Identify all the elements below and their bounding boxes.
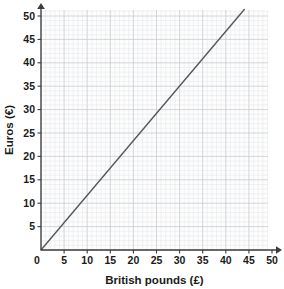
x-tick-label: 0: [34, 254, 40, 266]
conversion-graph: 05101520253035404550 5101520253035404550…: [0, 0, 284, 289]
x-tick-label: 25: [151, 254, 163, 266]
y-tick-label: 35: [23, 80, 35, 92]
x-tick-label: 35: [197, 254, 209, 266]
x-tick-label: 15: [104, 254, 116, 266]
chart-canvas: 05101520253035404550 5101520253035404550…: [0, 0, 284, 289]
y-axis-title: Euros (€): [3, 105, 15, 155]
x-tick-label: 40: [220, 254, 232, 266]
x-axis-title: British pounds (£): [105, 274, 204, 286]
x-tick-label: 5: [61, 254, 67, 266]
y-tick-label: 30: [23, 103, 35, 115]
y-tick-label: 15: [23, 173, 35, 185]
x-tick-label: 50: [266, 254, 278, 266]
x-tick-label: 10: [81, 254, 93, 266]
y-tick-label: 40: [23, 56, 35, 68]
y-tick-label: 25: [23, 127, 35, 139]
y-tick-label: 5: [29, 220, 35, 232]
x-tick-label: 30: [174, 254, 186, 266]
x-tick-label: 20: [128, 254, 140, 266]
y-tick-label: 10: [23, 197, 35, 209]
plot-area-background: [41, 10, 268, 250]
y-tick-label: 20: [23, 150, 35, 162]
y-tick-label: 50: [23, 10, 35, 22]
y-tick-label: 45: [23, 33, 35, 45]
x-tick-label: 45: [243, 254, 255, 266]
